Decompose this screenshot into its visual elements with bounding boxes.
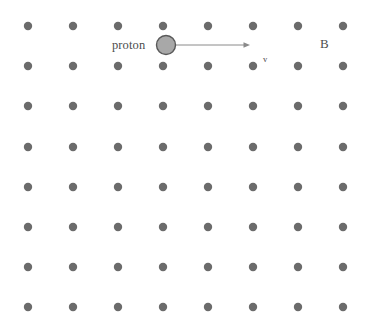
field-out-of-page-dot — [24, 102, 32, 110]
field-out-of-page-dot — [294, 62, 302, 70]
field-out-of-page-dot — [69, 102, 77, 110]
field-out-of-page-dot — [204, 102, 212, 110]
field-out-of-page-dot — [24, 22, 32, 30]
physics-diagram: proton v B — [0, 0, 368, 328]
field-out-of-page-dot — [249, 263, 257, 271]
field-out-of-page-dot — [294, 223, 302, 231]
field-out-of-page-dot — [249, 22, 257, 30]
velocity-arrow-head — [244, 42, 251, 48]
proton-label: proton — [112, 39, 145, 52]
magnetic-field-label: B — [320, 37, 329, 50]
field-out-of-page-dot — [294, 22, 302, 30]
field-out-of-page-dot — [69, 62, 77, 70]
field-out-of-page-dot — [114, 22, 122, 30]
field-out-of-page-dot — [294, 102, 302, 110]
field-out-of-page-dot — [204, 303, 212, 311]
proton-circle — [157, 36, 176, 55]
field-out-of-page-dot — [24, 62, 32, 70]
field-out-of-page-dot — [294, 143, 302, 151]
field-out-of-page-dot — [204, 143, 212, 151]
field-out-of-page-dot — [69, 263, 77, 271]
field-out-of-page-dot — [249, 303, 257, 311]
field-out-of-page-dot — [24, 303, 32, 311]
field-out-of-page-dot — [24, 143, 32, 151]
field-out-of-page-dot — [159, 263, 167, 271]
field-out-of-page-dot — [339, 143, 347, 151]
field-out-of-page-dot — [159, 183, 167, 191]
field-out-of-page-dot — [159, 143, 167, 151]
field-out-of-page-dot — [339, 102, 347, 110]
field-out-of-page-dot — [69, 22, 77, 30]
field-out-of-page-dot — [159, 303, 167, 311]
field-out-of-page-dot — [24, 183, 32, 191]
field-out-of-page-dot — [69, 183, 77, 191]
field-out-of-page-dot — [249, 183, 257, 191]
field-out-of-page-dot — [294, 303, 302, 311]
field-out-of-page-dot — [339, 303, 347, 311]
field-out-of-page-dot — [294, 183, 302, 191]
field-out-of-page-dot — [159, 62, 167, 70]
field-out-of-page-dot — [204, 223, 212, 231]
field-out-of-page-dot — [69, 143, 77, 151]
field-out-of-page-dot — [339, 62, 347, 70]
field-out-of-page-dot — [24, 263, 32, 271]
field-out-of-page-dot — [339, 263, 347, 271]
field-out-of-page-dot — [249, 102, 257, 110]
field-out-of-page-dot — [204, 62, 212, 70]
field-out-of-page-dot — [114, 62, 122, 70]
field-out-of-page-dot — [114, 183, 122, 191]
magnetic-field-canvas — [0, 0, 368, 328]
field-out-of-page-dot — [339, 223, 347, 231]
field-out-of-page-dot — [294, 263, 302, 271]
field-out-of-page-dot — [114, 303, 122, 311]
field-out-of-page-dot — [159, 102, 167, 110]
field-out-of-page-dot — [69, 303, 77, 311]
field-out-of-page-dot — [69, 223, 77, 231]
field-out-of-page-dot — [114, 143, 122, 151]
field-out-of-page-dot — [159, 223, 167, 231]
field-out-of-page-dot — [114, 263, 122, 271]
field-out-of-page-dot — [249, 143, 257, 151]
velocity-arrow — [176, 42, 250, 48]
field-out-of-page-dot — [249, 223, 257, 231]
field-out-of-page-dot — [249, 62, 257, 70]
field-out-of-page-dot — [114, 223, 122, 231]
field-out-of-page-dot — [204, 22, 212, 30]
velocity-label: v — [263, 55, 267, 64]
field-out-of-page-dot — [204, 263, 212, 271]
field-out-of-page-dot — [24, 223, 32, 231]
magnetic-field-dot-grid — [24, 22, 347, 311]
field-out-of-page-dot — [339, 22, 347, 30]
field-out-of-page-dot — [339, 183, 347, 191]
field-out-of-page-dot — [159, 22, 167, 30]
field-out-of-page-dot — [204, 183, 212, 191]
field-out-of-page-dot — [114, 102, 122, 110]
